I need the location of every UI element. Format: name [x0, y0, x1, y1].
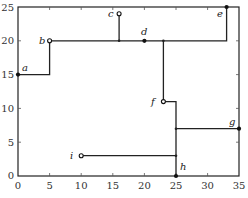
label-i: i — [70, 150, 73, 161]
label-e: e — [217, 8, 223, 19]
x-tick-5: 5 — [46, 180, 52, 191]
x-tick-10: 10 — [75, 180, 88, 191]
point-c — [117, 12, 121, 16]
y-tick-0: 0 — [8, 170, 14, 181]
x-tick-20: 20 — [138, 180, 151, 191]
point-h — [174, 174, 178, 178]
label-a: a — [22, 62, 28, 73]
point-g — [237, 127, 241, 131]
x-tick-35: 35 — [233, 180, 246, 191]
diagram-canvas: 0 5 10 15 20 25 30 35 0 5 10 15 20 25 a … — [0, 0, 248, 198]
point-b — [48, 39, 52, 43]
y-tick-10: 10 — [1, 103, 14, 114]
x-tick-30: 30 — [201, 180, 214, 191]
point-e — [225, 5, 229, 9]
junction-dots — [118, 40, 178, 158]
x-tick-15: 15 — [106, 180, 119, 191]
label-f: f — [150, 96, 157, 107]
point-a — [16, 73, 20, 77]
x-tick-0: 0 — [15, 180, 21, 191]
label-d: d — [141, 26, 147, 37]
label-h: h — [180, 161, 186, 172]
x-tick-25: 25 — [170, 180, 183, 191]
tree-edges — [18, 7, 239, 176]
y-tick-15: 15 — [1, 69, 14, 80]
y-tick-25: 25 — [1, 2, 14, 13]
point-d — [142, 39, 146, 43]
label-b: b — [39, 35, 45, 46]
y-tick-5: 5 — [8, 137, 14, 148]
plot-frame — [18, 7, 239, 176]
point-i — [79, 154, 83, 158]
label-c: c — [108, 8, 114, 19]
label-g: g — [229, 116, 235, 127]
point-f — [161, 100, 165, 104]
y-tick-20: 20 — [1, 35, 14, 46]
x-tick-marks — [50, 7, 208, 176]
y-tick-marks — [18, 41, 239, 142]
